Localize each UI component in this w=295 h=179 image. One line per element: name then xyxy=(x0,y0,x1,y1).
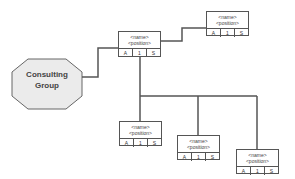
node-cell: 1 xyxy=(191,153,205,161)
node-position: <position> xyxy=(129,130,152,136)
node-cell: S xyxy=(234,29,248,37)
node-cell: 1 xyxy=(133,139,147,147)
org-node-manager[interactable]: <name><position> A1S xyxy=(118,31,161,57)
node-position: <position> xyxy=(246,158,269,164)
node-cell: A xyxy=(207,29,220,37)
node-cell: A xyxy=(120,139,133,147)
manager-to-topright-line xyxy=(161,28,206,41)
node-cell: A xyxy=(178,153,191,161)
node-cell: S xyxy=(147,139,161,147)
org-node-report-1[interactable]: <name><position> A1S xyxy=(119,121,162,146)
org-node-top-right[interactable]: <name><position> A1S xyxy=(206,11,249,36)
node-cell: S xyxy=(264,167,278,175)
org-node-report-3[interactable]: <name><position> A1S xyxy=(236,149,279,174)
node-cell: S xyxy=(205,153,219,161)
consulting-group-label: Consulting Group xyxy=(12,69,82,91)
node-cell: A xyxy=(119,49,132,57)
node-cell: 1 xyxy=(250,167,264,175)
node-cell: A xyxy=(237,167,250,175)
root-to-manager-line xyxy=(82,48,118,77)
node-position: <position> xyxy=(216,20,239,26)
node-position: <position> xyxy=(128,40,151,46)
node-position: <position> xyxy=(187,144,210,150)
node-cell: S xyxy=(146,49,160,57)
org-node-report-2[interactable]: <name><position> A1S xyxy=(177,135,220,160)
node-cell: 1 xyxy=(132,49,146,57)
node-cell: 1 xyxy=(220,29,234,37)
